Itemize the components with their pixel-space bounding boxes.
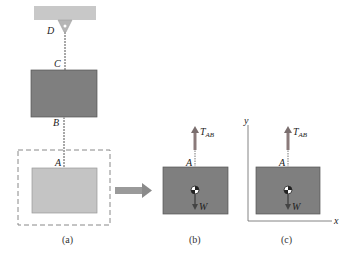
caption-a: (a): [62, 235, 73, 245]
point-label-a-c: A: [279, 158, 285, 168]
center-of-gravity-icon-c: [284, 186, 292, 194]
center-of-gravity-icon-b: [191, 186, 199, 194]
tension-arrow-c: [284, 126, 292, 150]
caption-b: (b): [189, 235, 201, 245]
ceiling: [34, 6, 96, 20]
lower-block-a: [32, 168, 97, 213]
tension-label-c: TAB: [293, 127, 307, 139]
transition-arrow: [115, 183, 152, 198]
point-label-a: A: [55, 158, 61, 168]
x-axis-label: x: [334, 216, 338, 226]
tension-arrow-b: [191, 126, 199, 150]
tension-label-b: TAB: [200, 127, 214, 139]
y-axis-label: y: [244, 116, 248, 126]
weight-label-c: W: [292, 202, 300, 212]
caption-c: (c): [281, 235, 292, 245]
weight-label-b: W: [199, 202, 207, 212]
point-label-a-b: A: [186, 158, 192, 168]
point-label-b: B: [53, 118, 59, 128]
upper-block: [31, 70, 97, 117]
point-label-c: C: [54, 59, 61, 69]
point-label-d: D: [47, 26, 54, 36]
